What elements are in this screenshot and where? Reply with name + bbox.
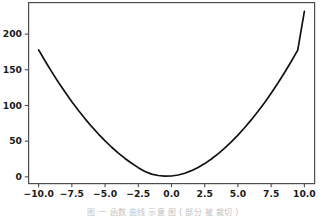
x-tick-label: −2.5 (126, 188, 150, 199)
plot-canvas: −10.0−7.5−5.0−2.50.02.55.07.510.0 050100… (0, 0, 326, 218)
matplotlib-figure: −10.0−7.5−5.0−2.50.02.55.07.510.0 050100… (0, 0, 326, 218)
figure-caption: 图 一 函数 曲线 示意 图 ( 部分 被 裁切 ) (0, 208, 326, 218)
x-tick-label: −5.0 (93, 188, 117, 199)
x-tick-label: −7.5 (60, 188, 84, 199)
x-tick-label: −10.0 (23, 188, 53, 199)
y-tick-label: 100 (3, 100, 22, 111)
y-tick-label: 50 (9, 135, 22, 146)
x-tick-label: 0.0 (163, 188, 179, 199)
x-tick-label: 10.0 (293, 188, 316, 199)
x-tick-label: 5.0 (230, 188, 246, 199)
y-tick-label: 150 (3, 64, 22, 75)
x-tick-label: 2.5 (197, 188, 213, 199)
y-tick-label: 0 (16, 171, 22, 182)
x-tick-label: 7.5 (263, 188, 279, 199)
y-tick-label: 200 (3, 28, 22, 39)
figure-background (0, 0, 326, 218)
